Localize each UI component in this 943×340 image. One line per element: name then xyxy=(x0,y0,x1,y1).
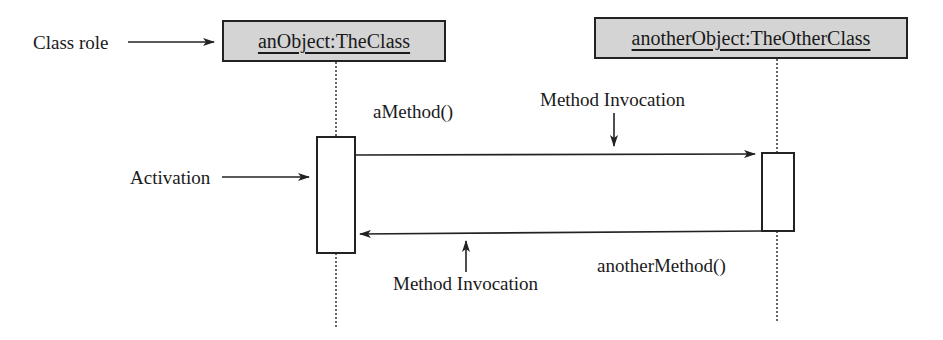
activation-left xyxy=(317,137,355,253)
method-invocation-top-label: Method Invocation xyxy=(540,90,685,109)
object-box-right: anotherObject:TheOtherClass xyxy=(594,17,908,59)
activation-right xyxy=(762,153,794,231)
object-label-right: anotherObject:TheOtherClass xyxy=(632,27,871,50)
message-arrow-amethod xyxy=(355,154,755,155)
message-label-amethod: aMethod() xyxy=(373,102,453,121)
method-invocation-bottom-label: Method Invocation xyxy=(393,274,538,293)
object-label-left: anObject:TheClass xyxy=(258,30,410,53)
message-label-anothermethod: anotherMethod() xyxy=(597,256,726,275)
message-arrow-anothermethod xyxy=(360,231,762,234)
activation-label: Activation xyxy=(130,168,210,187)
object-box-left: anObject:TheClass xyxy=(222,20,446,62)
class-role-label: Class role xyxy=(33,33,108,52)
